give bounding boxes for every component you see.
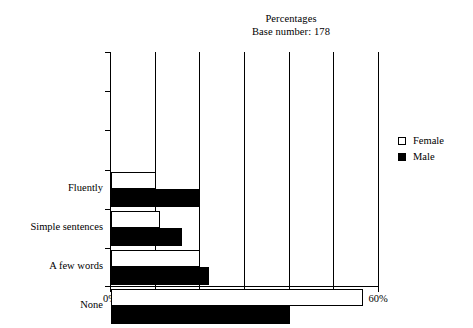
y-tick-5 bbox=[105, 248, 110, 249]
chart-title: Percentages bbox=[196, 12, 386, 25]
y-tick-1 bbox=[105, 91, 110, 92]
y-tick-2 bbox=[105, 130, 110, 131]
legend-label-male: Male bbox=[413, 152, 435, 162]
bar-fluently-female bbox=[111, 172, 156, 189]
chart-title-block: Percentages Base number: 178 bbox=[196, 12, 386, 38]
category-label-a-few-words: A few words bbox=[0, 260, 103, 271]
bar-none-female bbox=[111, 289, 363, 306]
bar-a-few-words-female bbox=[111, 250, 200, 267]
bar-simple-sentences-female bbox=[111, 211, 160, 228]
black-square-icon bbox=[398, 153, 406, 161]
white-square-icon bbox=[398, 137, 406, 145]
legend: Female Male bbox=[398, 133, 444, 165]
category-label-simple-sentences: Simple sentences bbox=[0, 221, 103, 232]
bar-group-none: None bbox=[111, 287, 379, 326]
category-label-none: None bbox=[0, 299, 103, 310]
y-tick-3 bbox=[105, 170, 110, 171]
legend-item-male: Male bbox=[398, 149, 444, 165]
chart-figure: Percentages Base number: 178 0% 10% 20% bbox=[0, 0, 473, 328]
legend-label-female: Female bbox=[413, 136, 444, 146]
bar-a-few-words-male bbox=[111, 267, 209, 285]
legend-item-female: Female bbox=[398, 133, 444, 149]
bar-group-simple-sentences: Simple sentences bbox=[111, 209, 379, 248]
bar-simple-sentences-male bbox=[111, 228, 182, 246]
bar-group-fluently: Fluently bbox=[111, 170, 379, 209]
plot-area: 0% 10% 20% 30% 40% 50% 60% FluentlySimpl… bbox=[110, 52, 378, 287]
bar-none-male bbox=[111, 306, 290, 324]
category-label-fluently: Fluently bbox=[0, 182, 103, 193]
bar-fluently-male bbox=[111, 189, 200, 207]
bar-group-a-few-words: A few words bbox=[111, 248, 379, 287]
chart-subtitle: Base number: 178 bbox=[196, 25, 386, 38]
y-tick-0 bbox=[105, 52, 110, 53]
y-tick-4 bbox=[105, 209, 110, 210]
